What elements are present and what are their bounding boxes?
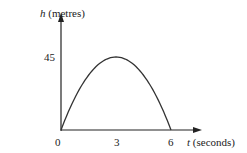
y-axis-variable: h (40, 7, 46, 19)
chart-canvas (0, 0, 247, 153)
x-axis-label: t (seconds) (187, 137, 235, 148)
x-axis-unit: (seconds) (193, 136, 235, 148)
y-tick-45: 45 (44, 52, 55, 63)
trajectory-curve (61, 57, 171, 130)
y-axis-label: h (metres) (40, 8, 85, 19)
x-tick-3: 3 (114, 137, 120, 148)
x-axis-variable: t (187, 136, 190, 148)
y-axis-unit: (metres) (48, 7, 85, 19)
x-axis-arrow-icon (193, 127, 202, 133)
x-tick-0: 0 (55, 137, 61, 148)
x-tick-6: 6 (168, 137, 174, 148)
